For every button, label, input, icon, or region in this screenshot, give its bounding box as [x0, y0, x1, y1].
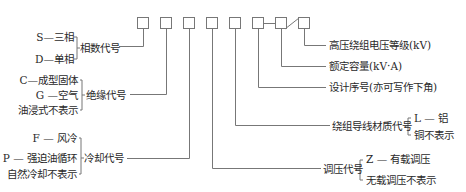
rated-capacity-label: 额定容量(kV·A) — [329, 60, 402, 72]
insulation-code-label: 绝缘代号 — [86, 89, 126, 101]
cooling-code-label: 冷却代号 — [84, 152, 124, 164]
leader-rated-capacity — [282, 29, 327, 67]
bracket-phase — [74, 37, 77, 59]
slash-separator — [285, 18, 299, 29]
code-box-5 — [230, 18, 241, 29]
phase-code-label: 相数代号 — [80, 42, 120, 54]
tap-changer-option-onload: Z — 有载调压 — [366, 153, 430, 165]
code-box-7 — [276, 18, 287, 29]
leader-phase — [119, 29, 144, 47]
insulation-option-air: G —空气 — [10, 89, 78, 101]
cooling-option-air: F — 风冷 — [0, 132, 77, 144]
tap-changer-code-label: 调压代号 — [323, 163, 363, 175]
hv-voltage-label: 高压绕组电压等级(kV) — [329, 39, 431, 51]
leader-cooling — [127, 29, 190, 159]
code-box-3 — [184, 18, 195, 29]
leader-tap-changer — [213, 29, 322, 169]
conductor-option-copper: 铜不表示 — [414, 129, 454, 141]
code-box-2 — [161, 18, 172, 29]
conductor-code-label: 绕组导线材质代号 — [332, 120, 412, 132]
bracket-insulation — [80, 80, 82, 110]
phase-option-single: D—单相 — [30, 53, 74, 65]
cooling-option-natural: 自然冷却不表示 — [0, 168, 77, 180]
bracket-cooling — [79, 138, 81, 174]
code-box-8 — [299, 18, 310, 29]
cooling-option-forced-oil: P — 强迫油循环 — [0, 152, 77, 164]
code-box-1 — [138, 18, 149, 29]
leader-insulation — [130, 29, 167, 95]
insulation-option-solid: C—成型固体 — [10, 74, 78, 86]
conductor-option-aluminum: L — 铝 — [414, 112, 448, 124]
design-no-label: 设计序号(亦可写作下角) — [329, 81, 437, 93]
code-box-4 — [207, 18, 218, 29]
insulation-option-oil: 油浸式不表示 — [10, 104, 78, 116]
leader-hv-voltage — [305, 29, 327, 46]
phase-option-three: S—三相 — [30, 31, 74, 43]
tap-changer-option-offload: 无载调压不表示 — [366, 174, 436, 186]
code-box-6 — [253, 18, 264, 29]
leader-design-no — [259, 29, 327, 88]
leader-conductor — [236, 29, 331, 126]
